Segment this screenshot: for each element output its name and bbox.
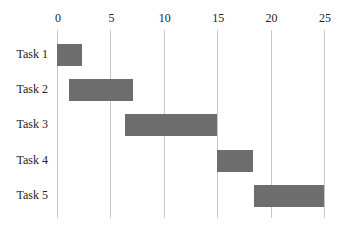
x-tick-label: 20 bbox=[266, 11, 278, 26]
task-bar bbox=[217, 150, 253, 172]
task-label: Task 5 bbox=[17, 188, 49, 203]
x-tick-label: 10 bbox=[159, 11, 171, 26]
x-tick-label: 15 bbox=[212, 11, 224, 26]
task-label: Task 4 bbox=[17, 153, 49, 168]
x-tick-label: 25 bbox=[319, 11, 331, 26]
task-bar bbox=[254, 185, 324, 207]
gridline bbox=[110, 30, 111, 218]
gridline bbox=[217, 30, 218, 218]
task-label: Task 3 bbox=[17, 117, 49, 132]
x-tick-label: 0 bbox=[55, 11, 61, 26]
task-bar bbox=[125, 114, 217, 136]
task-bar bbox=[69, 79, 133, 101]
gridline bbox=[324, 30, 325, 218]
task-bar bbox=[57, 44, 82, 66]
gantt-chart: 0510152025Task 1Task 2Task 3Task 4Task 5 bbox=[0, 0, 344, 228]
task-label: Task 1 bbox=[17, 47, 49, 62]
task-label: Task 2 bbox=[17, 82, 49, 97]
x-tick-label: 5 bbox=[108, 11, 114, 26]
